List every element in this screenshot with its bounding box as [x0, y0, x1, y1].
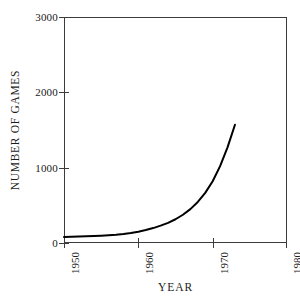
x-tick-label-1970: 1970: [218, 252, 230, 274]
y-tick-label-1000: 1000: [22, 162, 58, 174]
chart-figure: 3000 2000 1000 0 1950 1960 1970 1980 NUM…: [0, 0, 300, 301]
x-tick-label-1980: 1980: [291, 252, 300, 274]
y-tick-label-3000: 3000: [22, 11, 58, 23]
x-tick-label-1960: 1960: [143, 252, 155, 274]
data-curve-layer: [64, 17, 287, 243]
y-axis-title: NUMBER OF GAMES: [7, 17, 23, 243]
x-tick-label-1950: 1950: [69, 252, 81, 274]
y-tick-label-2000: 2000: [22, 86, 58, 98]
y-tick-label-0: 0: [22, 237, 58, 249]
x-axis-title: YEAR: [64, 281, 287, 293]
series-line-number-of-games: [64, 125, 235, 237]
